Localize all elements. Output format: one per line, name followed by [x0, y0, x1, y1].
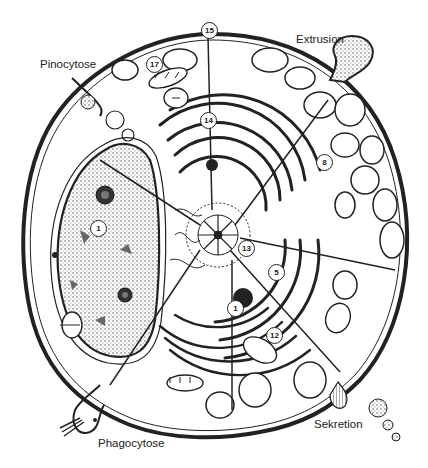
marker-1: 1 — [90, 220, 107, 237]
marker-15: 15 — [201, 22, 218, 39]
label-sekretion: Sekretion — [314, 418, 363, 430]
cell-illustration — [0, 0, 428, 468]
marker-5: 5 — [268, 264, 285, 281]
marker-13: 13 — [238, 240, 255, 257]
cell-diagram: Pinocytose Extrusion Phagocytose Sekreti… — [0, 0, 428, 468]
marker-17: 17 — [146, 56, 163, 73]
marker-12: 12 — [266, 327, 283, 344]
pinocytose-invagination — [72, 78, 134, 141]
label-pinocytose: Pinocytose — [40, 58, 96, 70]
secretion-droplets — [330, 382, 400, 441]
label-phagocytose: Phagocytose — [98, 437, 165, 449]
marker-11: 1 — [227, 300, 244, 317]
marker-8: 8 — [316, 154, 333, 171]
label-extrusion: Extrusion — [296, 33, 344, 45]
marker-14: 14 — [200, 112, 217, 129]
